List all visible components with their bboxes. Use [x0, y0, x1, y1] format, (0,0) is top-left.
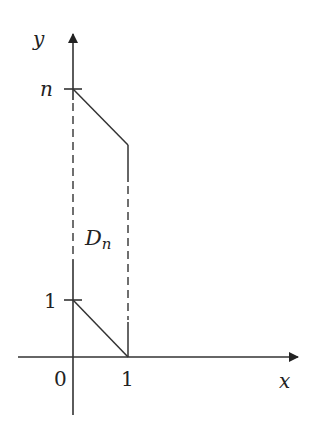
- upper-boundary: [73, 89, 128, 145]
- origin-label: 0: [54, 367, 67, 391]
- y-axis-label: y: [32, 27, 45, 51]
- region-label-main: D: [84, 226, 102, 250]
- region-diagram: y x n 1 0 1 Dn: [0, 0, 319, 426]
- region-label-sub: n: [102, 235, 112, 253]
- lower-boundary: [73, 300, 128, 357]
- x-tick-1-label: 1: [121, 367, 134, 391]
- y-tick-n-label: n: [40, 77, 53, 101]
- x-axis-label: x: [279, 369, 290, 393]
- y-tick-1-label: 1: [44, 289, 57, 313]
- region-label: Dn: [84, 226, 112, 253]
